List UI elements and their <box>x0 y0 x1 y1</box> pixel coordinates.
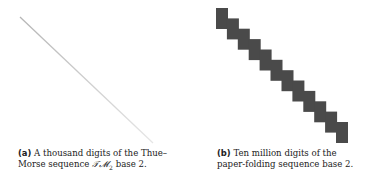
subfigure-a: (a) A thousand digits of the Thue–Morse … <box>0 0 187 174</box>
staircase-block <box>216 8 228 29</box>
staircase-block <box>227 18 239 39</box>
caption-label: (b) <box>217 148 231 158</box>
thue-morse-plot <box>0 0 187 150</box>
paperfolding-plot <box>187 0 374 150</box>
caption-text: Ten million digits of the paper-folding … <box>217 148 353 169</box>
staircase-block <box>303 91 315 112</box>
caption-label: (a) <box>18 148 31 158</box>
caption-b: (b) Ten million digits of the paper-fold… <box>217 148 367 170</box>
staircase-block <box>292 81 304 102</box>
staircase-block <box>249 39 261 60</box>
math-symbol: 𝒯𝓜2 <box>92 159 113 169</box>
caption-text-end: base 2. <box>113 159 147 169</box>
staircase-block <box>282 70 294 91</box>
staircase-block <box>271 60 283 81</box>
staircase-block <box>238 29 250 50</box>
staircase-block <box>260 50 272 71</box>
caption-a: (a) A thousand digits of the Thue–Morse … <box>18 148 168 173</box>
staircase-block <box>314 101 326 122</box>
sequence-line <box>20 17 153 143</box>
staircase-block <box>325 112 337 133</box>
subfigure-b: (b) Ten million digits of the paper-fold… <box>187 0 374 174</box>
staircase-block <box>336 122 348 143</box>
